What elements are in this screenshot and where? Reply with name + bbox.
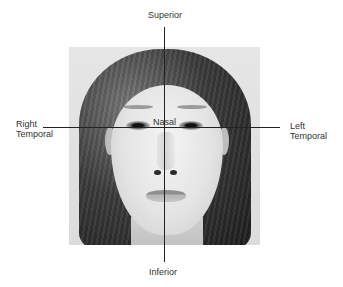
label-right-temporal-line2: Temporal [16,129,53,139]
vertical-axis-line [164,27,165,262]
nostril-left [170,170,177,175]
mouth [146,190,186,202]
brow-right [123,105,153,109]
nostril-right [154,170,161,175]
label-inferior: Inferior [149,267,177,277]
horizontal-axis-line [43,127,280,128]
eye-left [179,121,203,130]
label-left-temporal: Left Temporal [290,121,327,141]
label-nasal: Nasal [153,117,176,127]
label-left-temporal-line1: Left [290,121,327,131]
label-superior: Superior [148,10,182,20]
brow-left [177,105,207,109]
nose [157,132,175,170]
label-right-temporal-line1: Right [16,119,53,129]
label-right-temporal: Right Temporal [16,119,53,139]
label-left-temporal-line2: Temporal [290,131,327,141]
eye-right [126,121,150,130]
